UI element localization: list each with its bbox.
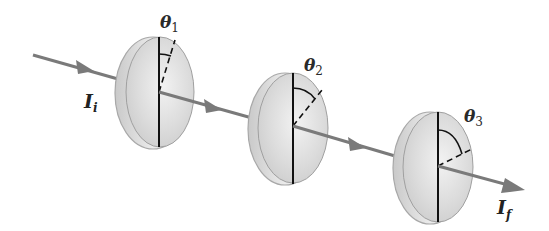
input-intensity-label: Ii	[83, 90, 98, 115]
polarizer-1	[115, 37, 194, 149]
arrow-head-icon	[204, 99, 222, 113]
theta-2-label: θ2	[304, 55, 323, 78]
theta-1-label: θ1	[160, 12, 179, 35]
polarizer-3	[393, 112, 473, 224]
output-intensity-label: If	[496, 196, 513, 222]
polarizer-2	[248, 73, 328, 185]
polarizer-diagram: θ1 θ2 θ3 Ii If	[0, 0, 549, 231]
arrow-head-icon	[501, 178, 525, 193]
diagram-svg: θ1 θ2 θ3 Ii If	[0, 0, 549, 231]
arrow-head-icon	[348, 137, 366, 151]
theta-3-label: θ3	[464, 106, 483, 129]
beam-incoming	[33, 55, 118, 79]
